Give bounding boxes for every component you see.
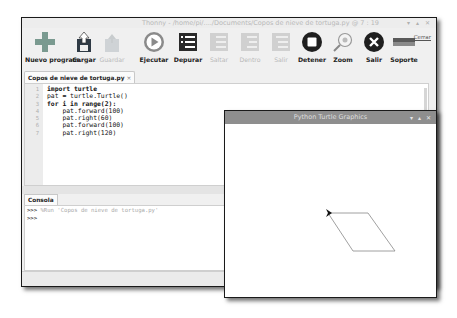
turtle-canvas[interactable] [225,124,436,297]
new-program-button[interactable]: Nuevo program. [25,31,65,63]
main-titlebar[interactable]: Thonny - /home/pi/..../Documents/Copos d… [22,18,436,28]
toolbar: Nuevo program. Cargar Guardar Ejecutar [22,28,436,68]
window-title: Thonny - /home/pi/..../Documents/Copos d… [142,18,379,28]
step-out-icon [270,31,292,53]
line-number: 2 [25,93,43,100]
minimize-icon[interactable]: ▾ [410,111,413,124]
turtle-graphics-window: Python Turtle Graphics ▾ ▴ ✕ [224,110,437,298]
save-icon [101,31,123,53]
maximize-icon[interactable]: ▴ [416,18,419,28]
line-number: 5 [25,115,43,122]
new-file-plus-icon [34,31,56,53]
quit-x-icon [363,31,385,53]
line-number: 4 [25,108,43,115]
tab-close-icon[interactable]: × [127,75,132,81]
step-into-icon [239,31,261,53]
console-tab[interactable]: Consola [24,194,58,205]
support-flag-icon [393,31,415,53]
turtle-cursor-icon [326,209,332,217]
code-area[interactable]: import turtle pat = turtle.Turtle() for … [47,86,128,137]
close-link[interactable]: Cerrar [414,34,431,40]
maximize-icon[interactable]: ▴ [418,111,421,124]
line-number: 6 [25,122,43,129]
step-over-icon [208,31,230,53]
code-line: pat.right(120) [47,130,128,137]
line-number: 7 [25,130,43,137]
close-icon[interactable]: ✕ [425,18,430,28]
debug-icon [177,31,199,53]
line-number: 3 [25,101,43,108]
minimize-icon[interactable]: ▾ [407,18,410,28]
stop-icon [301,31,323,53]
line-number-gutter: 1 2 3 4 5 6 7 [25,84,43,185]
turtle-window-title: Python Turtle Graphics [294,113,368,121]
close-icon[interactable]: ✕ [426,111,431,124]
run-play-icon [143,31,165,53]
editor-tabbar: Copos de nieve de tortuga.py× [22,71,436,83]
line-number: 1 [25,86,43,93]
turtle-titlebar[interactable]: Python Turtle Graphics ▾ ▴ ✕ [225,111,436,124]
zoom-icon [332,31,354,53]
turtle-drawing [225,124,436,298]
editor-tab[interactable]: Copos de nieve de tortuga.py× [24,71,135,83]
save-button[interactable]: Guardar [92,31,132,63]
parallelogram-shape [328,213,395,251]
